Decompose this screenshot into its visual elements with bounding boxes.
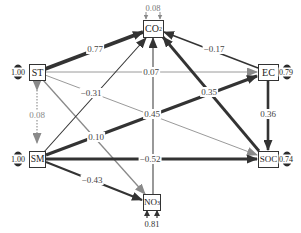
node-co2-label: CO xyxy=(145,24,159,34)
node-soc-label: SOC xyxy=(260,155,278,164)
label-no3-co2: 0.45 xyxy=(143,109,161,119)
label-st-no3: 0.10 xyxy=(87,132,105,142)
node-no3-sub: 3 xyxy=(157,200,160,206)
label-ec-soc: 0.36 xyxy=(259,109,277,119)
node-co2-sub: 2 xyxy=(159,26,162,32)
node-ec: EC xyxy=(258,64,279,81)
residual-sm: 1.00 xyxy=(11,155,26,164)
node-soc: SOC xyxy=(258,151,279,168)
label-st-ec: 0.07 xyxy=(142,67,160,77)
label-st-soc: −0.31 xyxy=(80,88,103,98)
label-sm-soc: −0.52 xyxy=(139,154,162,164)
residual-soc: 0.74 xyxy=(279,155,294,164)
node-ec-label: EC xyxy=(262,68,275,78)
node-sm: SM xyxy=(29,151,46,168)
residual-co2: 0.08 xyxy=(146,3,161,13)
label-sm-st: 0.08 xyxy=(28,110,46,120)
label-ec-co2: −0.17 xyxy=(203,44,226,54)
label-st-co2: 0.77 xyxy=(86,44,104,54)
residual-ec: 0.79 xyxy=(279,68,294,77)
residual-st: 1.00 xyxy=(11,68,26,77)
node-sm-label: SM xyxy=(31,155,45,165)
node-st: ST xyxy=(29,64,46,81)
path-diagram: CO2 ST EC SM SOC NO3 1.00 1.00 0.79 0.74… xyxy=(0,0,301,233)
node-st-label: ST xyxy=(32,68,44,78)
node-no3: NO3 xyxy=(143,194,161,211)
label-sm-ec: 0.35 xyxy=(200,87,218,97)
residual-no3: 0.81 xyxy=(145,219,160,229)
node-no3-label: NO xyxy=(144,198,157,207)
label-sm-no3: −0.43 xyxy=(81,175,104,185)
node-co2: CO2 xyxy=(143,20,164,38)
